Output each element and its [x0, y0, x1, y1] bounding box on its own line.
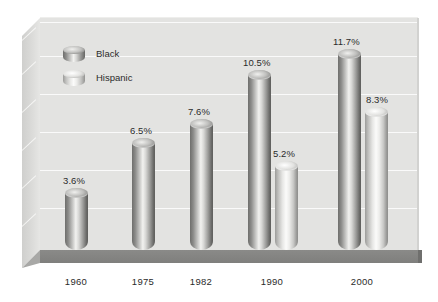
legend-label-black: Black — [96, 48, 119, 59]
axis-label-2000: 2000 — [336, 276, 388, 287]
bar-cap — [275, 161, 298, 171]
axis-label-1982: 1982 — [175, 276, 227, 287]
value-label-2000-hispanic: 8.3% — [366, 94, 388, 105]
bar-cap — [365, 107, 388, 117]
chart-floor — [40, 250, 418, 263]
bar-2000-hispanic — [365, 107, 388, 250]
bar-body — [275, 166, 298, 250]
gridline-6 — [40, 132, 418, 133]
value-label-1990-black: 10.5% — [243, 57, 270, 68]
gridline-2 — [40, 208, 418, 209]
bar-1982-black — [190, 119, 213, 250]
gridline-12 — [40, 22, 418, 23]
bar-cap — [338, 49, 361, 59]
gridline-8 — [40, 94, 418, 95]
bar-body — [132, 143, 155, 250]
bar-body — [365, 112, 388, 250]
bar-body — [65, 193, 88, 250]
value-label-1960-black: 3.6% — [63, 175, 85, 186]
value-label-1982-black: 7.6% — [188, 106, 210, 117]
bar-1990-hispanic — [275, 161, 298, 250]
value-label-1975-black: 6.5% — [130, 125, 152, 136]
legend-swatch-cap — [63, 46, 85, 54]
cylinder-bar-chart: 3.6% 6.5% 7.6% 10.5% 5.2% 11.7% 8.3% 196… — [0, 0, 438, 302]
bar-body — [248, 75, 271, 250]
chart-floor-right-edge — [418, 250, 422, 263]
value-label-1990-hispanic: 5.2% — [273, 148, 295, 159]
bar-body — [338, 54, 361, 250]
chart-left-wall — [22, 18, 40, 268]
axis-label-1990: 1990 — [246, 276, 298, 287]
plot-top-edge — [40, 17, 418, 18]
bar-cap — [190, 119, 213, 129]
bar-1990-black — [248, 70, 271, 250]
bar-body — [190, 124, 213, 250]
gridline-4 — [40, 170, 418, 171]
bar-cap — [132, 138, 155, 148]
bar-cap — [248, 70, 271, 80]
bar-2000-black — [338, 49, 361, 250]
axis-label-1975: 1975 — [117, 276, 169, 287]
legend-label-hispanic: Hispanic — [96, 72, 132, 83]
plot-right-edge — [417, 18, 419, 250]
legend-swatch-cap — [63, 70, 85, 78]
legend-swatch-hispanic-icon — [63, 70, 85, 87]
bar-1960-black — [65, 188, 88, 250]
axis-label-1960: 1960 — [50, 276, 102, 287]
bar-1975-black — [132, 138, 155, 250]
bar-cap — [65, 188, 88, 198]
value-label-2000-black: 11.7% — [333, 36, 360, 47]
legend-swatch-black-icon — [63, 46, 85, 63]
